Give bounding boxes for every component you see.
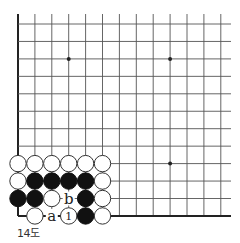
black-stone-icon (44, 173, 60, 189)
white-stone (44, 190, 60, 206)
black-stone-icon (77, 190, 93, 206)
star-point-icon (67, 57, 71, 61)
white-stone (60, 155, 76, 171)
stones: 1 (10, 155, 111, 224)
white-stone (27, 155, 43, 171)
white-stone (94, 190, 110, 206)
white-stone (27, 208, 43, 224)
black-stone (27, 173, 43, 189)
white-stone-icon (44, 190, 60, 206)
white-stone-icon (27, 155, 43, 171)
marker-label: b (64, 190, 74, 208)
move-number-label: 1 (65, 210, 72, 223)
black-stone-icon (60, 173, 76, 189)
white-stone-icon (94, 155, 110, 171)
white-stone-icon (94, 173, 110, 189)
white-stone (94, 173, 110, 189)
white-stone: 1 (60, 208, 76, 224)
black-stone-icon (27, 190, 43, 206)
white-stone-icon (60, 155, 76, 171)
black-stone-icon (10, 190, 26, 206)
point-marker: b (63, 190, 75, 208)
point-marker: a (46, 207, 58, 225)
white-stone-icon (10, 173, 26, 189)
black-stone (10, 190, 26, 206)
white-stone (77, 155, 93, 171)
black-stone (27, 190, 43, 206)
black-stone (44, 173, 60, 189)
marker-label: a (47, 207, 56, 225)
white-stone-icon (94, 190, 110, 206)
black-stone (77, 190, 93, 206)
white-stone-icon (27, 208, 43, 224)
go-board: 1 ba (0, 0, 240, 243)
black-stone-icon (77, 173, 93, 189)
white-stone (10, 173, 26, 189)
black-stone-icon (77, 208, 93, 224)
star-point-icon (168, 162, 172, 166)
black-stone (77, 208, 93, 224)
diagram-caption: 14도 (17, 224, 40, 240)
white-stone (10, 155, 26, 171)
white-stone (94, 208, 110, 224)
white-stone (44, 155, 60, 171)
white-stone (94, 155, 110, 171)
white-stone-icon (44, 155, 60, 171)
white-stone-icon (10, 155, 26, 171)
black-stone (77, 173, 93, 189)
white-stone-icon (94, 208, 110, 224)
white-stone-icon (77, 155, 93, 171)
black-stone-icon (27, 173, 43, 189)
star-point-icon (168, 57, 172, 61)
black-stone (60, 173, 76, 189)
